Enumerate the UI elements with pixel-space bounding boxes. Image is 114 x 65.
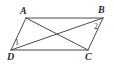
vertex-label-c: C — [85, 52, 92, 62]
parallelogram-diagram — [0, 0, 114, 65]
vertex-label-b: B — [98, 5, 105, 15]
vertex-label-d: D — [7, 52, 14, 62]
angle-label-2: 2 — [94, 23, 98, 31]
angle-label-1: 1 — [15, 39, 19, 47]
geometry-figure: A B C D 1 2 — [0, 0, 114, 65]
parallelogram-diagonals — [11, 18, 103, 50]
diagonal-DB — [11, 18, 103, 50]
vertex-label-a: A — [20, 6, 27, 16]
